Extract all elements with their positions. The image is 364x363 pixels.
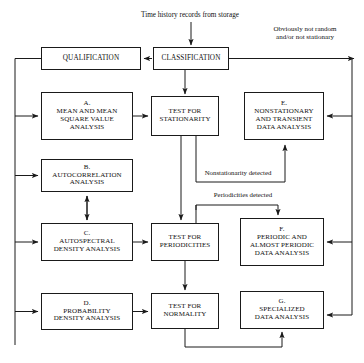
node-test-for-stationarity[interactable]: TEST FOR STATIONARITY: [151, 96, 219, 136]
edge-label-nonstationarity-detected: Nonstationarity detected: [186, 169, 290, 177]
node-qualification-label: QUALIFICATION: [62, 54, 120, 62]
wire-qualification-left-bus: [15, 59, 41, 346]
node-f-label: F. PERIODIC AND ALMOST PERIODIC DATA ANA…: [249, 226, 315, 257]
node-a-label: A. MEAN AND MEAN SQUARE VALUE ANALYSIS: [56, 100, 119, 131]
wire-normality-to-g: [185, 329, 282, 347]
node-a-mean-square-value[interactable]: A. MEAN AND MEAN SQUARE VALUE ANALYSIS: [41, 92, 133, 140]
node-test-stationarity-label: TEST FOR STATIONARITY: [158, 108, 211, 124]
node-g-specialized-data-analysis[interactable]: G. SPECIALIZED DATA ANALYSIS: [240, 291, 324, 329]
node-e-nonstationary-transient[interactable]: E. NONSTATIONARY AND TRANSIENT DATA ANAL…: [244, 92, 324, 140]
node-test-for-normality[interactable]: TEST FOR NORMALITY: [151, 293, 219, 329]
node-e-label: E. NONSTATIONARY AND TRANSIENT DATA ANAL…: [253, 100, 314, 131]
node-b-autocorrelation[interactable]: B. AUTOCORRELATION ANALYSIS: [41, 159, 133, 192]
node-f-periodic-almost-periodic[interactable]: F. PERIODIC AND ALMOST PERIODIC DATA ANA…: [240, 218, 324, 266]
node-test-for-periodicities[interactable]: TEST FOR PERIODICITIES: [151, 223, 219, 261]
node-d-probability-density[interactable]: D. PROBABILITY DENSITY ANALYSIS: [41, 293, 133, 330]
wire-periodicities-to-f: [196, 205, 278, 215]
flowchart-canvas: Time history records from storage: [0, 0, 364, 363]
node-c-autospectral-density[interactable]: C. AUTOSPECTRAL DENSITY ANALYSIS: [41, 223, 133, 261]
node-test-normality-label: TEST FOR NORMALITY: [163, 303, 208, 319]
source-caption: Time history records from storage: [125, 11, 255, 19]
edge-label-not-random: Obviously not random and/or not stationa…: [253, 26, 357, 42]
node-g-label: G. SPECIALIZED DATA ANALYSIS: [254, 298, 310, 321]
node-classification-label: CLASSIFICATION: [161, 54, 222, 62]
node-qualification[interactable]: QUALIFICATION: [41, 47, 141, 70]
node-b-label: B. AUTOCORRELATION ANALYSIS: [51, 164, 122, 187]
edge-label-periodicities-detected: Periodicities detected: [193, 191, 293, 199]
node-classification[interactable]: CLASSIFICATION: [153, 47, 229, 70]
node-test-periodicities-label: TEST FOR PERIODICITIES: [159, 234, 212, 250]
wire-right-bus-down: [327, 59, 352, 316]
node-d-label: D. PROBABILITY DENSITY ANALYSIS: [53, 300, 122, 323]
node-c-label: C. AUTOSPECTRAL DENSITY ANALYSIS: [53, 230, 122, 253]
